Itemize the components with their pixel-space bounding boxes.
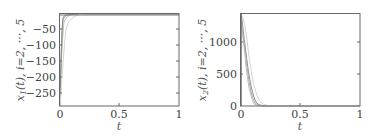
right-ytick-label: 1000	[209, 36, 237, 49]
left-ytick-label: −200	[26, 71, 56, 84]
right-plot-panel: 1000 500 0 0 0.5 1 t x2(t), i=2, ···, 5	[190, 0, 380, 139]
left-ytick-label: −150	[26, 55, 56, 68]
left-ylabel: x1(t), i=2, ···, 5	[14, 19, 28, 102]
right-plot-curves	[241, 14, 360, 106]
left-axes-frame	[60, 14, 180, 107]
left-ytick-label: −50	[33, 23, 56, 36]
right-ylabel: x2(t), i=2, ···, 5	[196, 19, 210, 102]
right-xtick-label: 0	[238, 108, 245, 121]
right-plot-svg: 1000 500 0 0 0.5 1 t x2(t), i=2, ···, 5	[190, 0, 380, 139]
left-xtick-label: 0	[57, 108, 64, 121]
right-axes-frame	[241, 14, 361, 107]
left-plot-panel: −50 −100 −150 −200 −250 0 0.5 1 t x1(t),…	[0, 0, 190, 139]
right-xtick-label: 1	[357, 108, 364, 121]
left-ytick-marks	[59, 29, 179, 106]
left-ytick-label: −100	[26, 39, 56, 52]
left-xtick-label: 1	[176, 108, 183, 121]
left-plot-curves	[60, 14, 179, 106]
left-ytick-label: −250	[26, 87, 56, 100]
right-ytick-label: 500	[216, 68, 237, 81]
right-xlabel: t	[298, 120, 303, 133]
right-ytick-marks	[240, 42, 360, 106]
left-plot-svg: −50 −100 −150 −200 −250 0 0.5 1 t x1(t),…	[0, 0, 190, 139]
right-ytick-label: 0	[230, 100, 237, 113]
left-xlabel: t	[117, 120, 122, 133]
